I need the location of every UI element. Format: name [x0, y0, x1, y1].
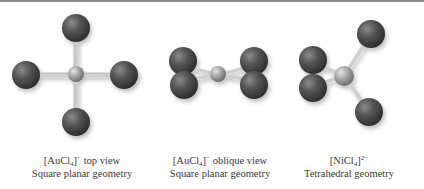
chlorine-atom-front-right: [240, 71, 268, 99]
formula-line: [AuCl4]− top view: [12, 154, 152, 167]
chlorine-atom-back-left: [169, 47, 197, 75]
chlorine-atom-upper-left: [299, 46, 327, 74]
gold-atom-center: [68, 66, 84, 82]
caption-tetrahedral: [NiCl4]2− Tetrahedral geometry: [284, 154, 414, 180]
square-planar-oblique-view-model: [169, 47, 268, 99]
geometry-label: Square planar geometry: [12, 167, 152, 180]
formula-line: [AuCl4]− oblique view: [150, 154, 290, 167]
geometry-label: Tetrahedral geometry: [284, 167, 414, 180]
chlorine-atom-right: [110, 61, 138, 89]
tetrahedral-model: [299, 20, 385, 126]
caption-oblique-view: [AuCl4]− oblique view Square planar geom…: [150, 154, 290, 180]
chlorine-atom-upper-right: [357, 20, 385, 48]
chlorine-atom-front-left: [170, 71, 198, 99]
nickel-atom-center: [334, 66, 354, 86]
chlorine-atom-top: [62, 14, 90, 42]
chlorine-atom-left: [12, 61, 40, 89]
chlorine-atom-back-right: [240, 47, 268, 75]
geometry-label: Square planar geometry: [150, 167, 290, 180]
square-planar-top-view-model: [12, 14, 138, 136]
formula-line: [NiCl4]2−: [284, 154, 414, 167]
chlorine-atom-lower-left: [299, 74, 327, 102]
chlorine-atom-lower-right: [355, 98, 383, 126]
chlorine-atom-bottom: [62, 108, 90, 136]
gold-atom-center: [210, 66, 226, 82]
caption-top-view: [AuCl4]− top view Square planar geometry: [12, 154, 152, 180]
molecule-models: [0, 0, 424, 150]
